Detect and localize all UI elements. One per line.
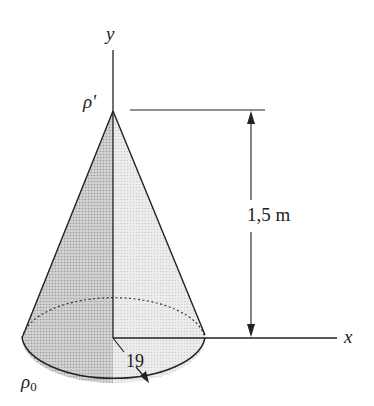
- height-dimension-label: 1,5 m: [246, 205, 291, 224]
- base-density-subscript: 0: [30, 379, 37, 394]
- base-density-label: ρ0: [21, 372, 37, 393]
- arrow-up-icon: [247, 111, 255, 124]
- arrow-down-icon: [247, 324, 255, 337]
- y-axis-label: y: [106, 24, 114, 43]
- cone-figure: [0, 0, 374, 406]
- apex-density-label: ρ': [83, 92, 96, 111]
- x-axis-label: x: [344, 327, 352, 346]
- cone-left-face: [22, 111, 113, 383]
- base-density-symbol: ρ: [21, 371, 30, 392]
- cone-right-face: [113, 111, 205, 383]
- radius-dimension-label: 19: [126, 352, 144, 370]
